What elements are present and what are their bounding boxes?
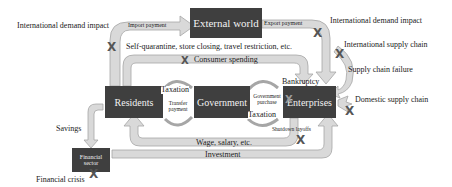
x-mark-icon: X	[335, 48, 344, 60]
node-external-world: External world	[190, 8, 262, 38]
intl-demand-impact-right: International demand impact	[330, 17, 422, 25]
export-payment-label: Export payment	[264, 20, 303, 26]
x-mark-icon: X	[296, 134, 305, 146]
government-purchase-label: Government purchase	[250, 94, 284, 105]
economic-impact-diagram: .ar { fill: #d9d9d9; stroke: #a6a6a6; st…	[0, 0, 452, 187]
savings-arrow	[84, 104, 103, 148]
residents-label: Residents	[115, 97, 154, 108]
savings-label: Savings	[56, 125, 81, 133]
consumer-spending-label: Consumer spending	[194, 56, 258, 64]
domestic-supply-chain-label: Domestic supply chain	[355, 96, 428, 104]
import-payment-label: Import payment	[128, 22, 167, 28]
x-mark-icon: X	[181, 56, 189, 66]
node-residents: Residents	[105, 86, 163, 118]
investment-label: Investment	[205, 151, 241, 159]
x-mark-icon: X	[313, 27, 322, 39]
bankruptcy-label: Bankruptcy	[282, 78, 319, 86]
financial-crisis-label: Financial crisis	[36, 176, 85, 184]
shutdown-layoffs-label: Shutdown layoffs	[272, 127, 311, 133]
transfer-payment-label: Transfer payment	[163, 101, 193, 112]
wage-salary-label: Wage, salary, etc.	[196, 139, 252, 147]
supply-chain-failure-label: Supply chain failure	[348, 66, 413, 74]
external-world-label: External world	[193, 17, 259, 29]
enterprises-label: Enterprises	[287, 97, 332, 108]
x-mark-icon: X	[345, 105, 354, 117]
taxation-enterprises-label: Taxation	[248, 111, 276, 119]
x-mark-icon: X	[89, 168, 98, 180]
financial-sector-label: Financial sector	[72, 154, 110, 166]
x-mark-icon: X	[107, 41, 116, 53]
government-purchase-arc	[248, 81, 278, 90]
taxation-arc-enterprises	[248, 119, 278, 126]
government-label: Government	[197, 97, 247, 108]
intl-demand-impact-left: International demand impact	[17, 22, 109, 30]
transfer-payment-arc	[165, 117, 192, 125]
taxation-residents-label: Taxation	[161, 86, 189, 94]
x-mark-icon: X	[285, 95, 293, 105]
self-quarantine-label: Self-quarantine, store closing, travel r…	[126, 43, 292, 51]
intl-supply-chain-label: International supply chain	[344, 41, 428, 49]
node-government: Government	[194, 86, 250, 118]
